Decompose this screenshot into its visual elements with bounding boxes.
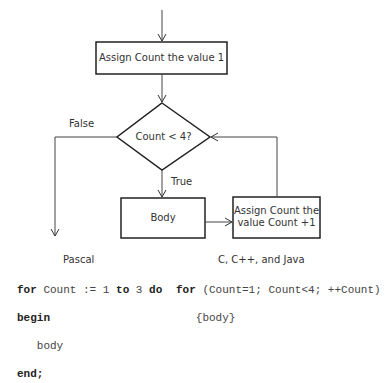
body-box-label: Body bbox=[121, 212, 205, 224]
pascal-line-4: end; bbox=[17, 367, 162, 381]
loop-back-arrow bbox=[211, 137, 277, 197]
increment-box-label: Assign Count the value Count +1 bbox=[233, 205, 320, 229]
c-heading: C, C++, and Java bbox=[218, 254, 305, 265]
condition-label: Count < 4? bbox=[117, 131, 210, 143]
false-path-arrow bbox=[55, 137, 117, 236]
pascal-heading: Pascal bbox=[63, 254, 94, 265]
init-box-label: Assign Count the value 1 bbox=[96, 52, 227, 64]
pascal-line-2: begin bbox=[17, 311, 162, 325]
pascal-line-3: body bbox=[17, 339, 162, 353]
c-line-1: for (Count=1; Count<4; ++Count) bbox=[176, 283, 381, 297]
c-code: for (Count=1; Count<4; ++Count) {body} bbox=[176, 269, 381, 339]
c-line-2: {body} bbox=[176, 311, 381, 325]
pascal-code: for Count := 1 to 3 do begin body end; bbox=[17, 269, 162, 383]
pascal-line-1: for Count := 1 to 3 do bbox=[17, 283, 162, 297]
increment-line2: value Count +1 bbox=[233, 217, 320, 229]
false-label: False bbox=[69, 118, 94, 129]
increment-line1: Assign Count the bbox=[233, 205, 320, 217]
true-label: True bbox=[171, 176, 192, 187]
